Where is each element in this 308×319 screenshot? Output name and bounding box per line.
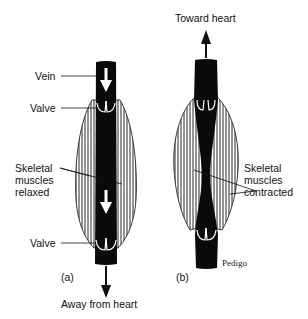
label-valve-upper: Valve bbox=[30, 102, 56, 114]
label-muscles-a-3: relaxed bbox=[15, 186, 50, 198]
artist-signature: Pedigo bbox=[222, 258, 248, 268]
relaxed-muscle-right bbox=[115, 100, 136, 248]
arrow-away-from-heart-icon bbox=[101, 266, 111, 298]
label-away-from-heart: Away from heart bbox=[61, 298, 137, 310]
relaxed-muscle-left bbox=[76, 100, 97, 248]
label-valve-lower: Valve bbox=[30, 237, 56, 249]
panel-a: Vein Valve Skeletal muscles relaxed Valv… bbox=[15, 61, 137, 310]
panel-b: Toward heart Skeletal muscles contracted… bbox=[174, 12, 293, 283]
label-muscles-a-1: Skeletal bbox=[15, 162, 52, 174]
diagram-canvas: Vein Valve Skeletal muscles relaxed Valv… bbox=[0, 0, 308, 319]
label-muscles-b-2: muscles bbox=[244, 174, 283, 186]
label-vein: Vein bbox=[35, 70, 56, 82]
caption-b: (b) bbox=[176, 271, 189, 283]
caption-a: (a) bbox=[61, 271, 74, 283]
label-muscles-a-2: muscles bbox=[15, 174, 54, 186]
label-toward-heart: Toward heart bbox=[175, 12, 236, 24]
arrow-toward-heart-icon bbox=[201, 30, 211, 58]
label-muscles-b-1: Skeletal bbox=[244, 162, 281, 174]
label-muscles-b-3: contracted bbox=[244, 186, 293, 198]
